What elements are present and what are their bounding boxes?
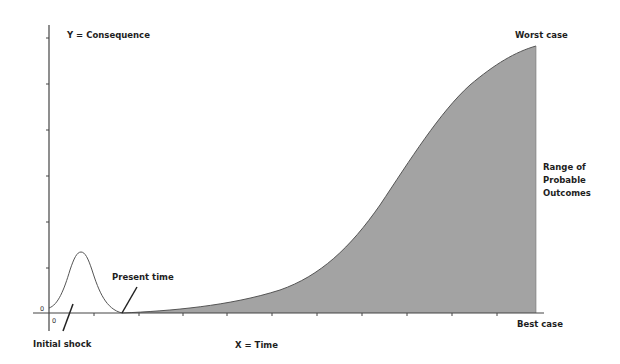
present-time-pointer [122, 287, 137, 313]
best-case-label: Best case [517, 319, 563, 329]
range-label-line3: Outcomes [543, 188, 591, 198]
y-axis-label: Y = Consequence [66, 30, 150, 40]
x-axis-label: X = Time [235, 340, 278, 350]
initial-shock-pointer [63, 304, 73, 331]
risk-outcome-diagram: Y = Consequence X = Time Worst case Best… [0, 0, 620, 364]
initial-shock-curve [49, 252, 122, 313]
origin-x-label: 0 [52, 317, 56, 325]
present-time-label: Present time [112, 272, 174, 282]
worst-case-label: Worst case [515, 30, 568, 40]
range-label-line1: Range of [543, 162, 586, 172]
range-label-line2: Probable [543, 175, 586, 185]
probable-outcomes-area [122, 46, 536, 313]
initial-shock-label: Initial shock [33, 339, 92, 349]
origin-y-label: 0 [40, 305, 44, 313]
